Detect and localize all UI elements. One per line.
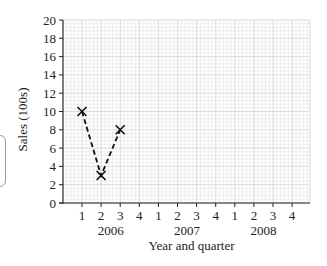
- y-tick-label: 4: [50, 159, 57, 174]
- x-tick-label: 3: [193, 208, 200, 223]
- sales-chart: 0246810121416182012341234123420062007200…: [0, 0, 327, 266]
- x-tick-label: 2: [174, 208, 181, 223]
- x-tick-label: 4: [136, 208, 143, 223]
- y-tick-label: 0: [50, 196, 57, 211]
- y-tick-label: 6: [50, 141, 57, 156]
- y-tick-label: 12: [43, 86, 56, 101]
- x-tick-label: 2: [251, 208, 258, 223]
- year-label: 2006: [98, 223, 125, 238]
- year-label: 2007: [174, 223, 201, 238]
- x-tick-label: 3: [270, 208, 277, 223]
- x-tick-label: 1: [79, 208, 86, 223]
- x-tick-label: 4: [212, 208, 219, 223]
- y-tick-label: 10: [43, 104, 56, 119]
- year-label: 2008: [250, 223, 276, 238]
- y-tick-label: 8: [50, 122, 57, 137]
- x-axis-title: Year and quarter: [148, 238, 235, 253]
- x-tick-label: 1: [155, 208, 162, 223]
- y-tick-label: 16: [43, 49, 57, 64]
- y-tick-label: 14: [43, 67, 57, 82]
- y-tick-label: 20: [43, 13, 56, 28]
- y-axis-title: Sales (100s): [15, 88, 30, 152]
- x-tick-label: 2: [98, 208, 105, 223]
- x-tick-label: 3: [117, 208, 124, 223]
- y-tick-label: 18: [43, 31, 56, 46]
- y-tick-label: 2: [50, 177, 57, 192]
- x-tick-label: 1: [232, 208, 239, 223]
- x-tick-label: 4: [289, 208, 296, 223]
